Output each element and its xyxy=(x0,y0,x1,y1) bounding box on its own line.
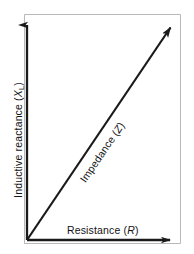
plot-canvas xyxy=(0,0,194,254)
x-axis-label-symbol: R xyxy=(127,224,135,236)
x-axis-label-prefix: Resistance ( xyxy=(67,224,127,236)
x-axis-label: Resistance (R) xyxy=(67,224,139,236)
impedance-vector-line xyxy=(27,28,171,241)
impedance-phasor-diagram: Inductive reactance (XL) Resistance (R) … xyxy=(0,0,194,254)
x-axis-label-suffix: ) xyxy=(135,224,139,236)
